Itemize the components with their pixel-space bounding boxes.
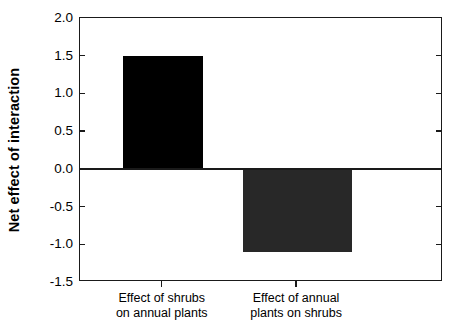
y-axis-tick-label: 2.0 (54, 10, 73, 25)
y-axis-tick-label: 1.0 (54, 85, 73, 100)
x-axis-tick-label-line: plants on shrubs (250, 306, 342, 321)
x-axis-tick-label-line: Effect of shrubs (116, 291, 208, 306)
x-axis-tick-mark (295, 281, 296, 287)
y-axis-tick-label: 0.5 (54, 123, 73, 138)
y-axis-tick-label: -1.5 (50, 274, 73, 289)
y-axis-tick-mark (436, 206, 441, 207)
bar (243, 169, 352, 252)
y-axis-tick-mark (436, 244, 441, 245)
plot-inner (80, 18, 441, 280)
x-axis-tick-label: Effect of annualplants on shrubs (250, 291, 342, 321)
x-axis-tick-label-line: on annual plants (116, 306, 208, 321)
x-axis-tick-mark (161, 281, 162, 287)
y-axis-tick-mark (436, 130, 441, 131)
plot-area (79, 17, 442, 281)
y-axis-label: Net effect of interaction (6, 68, 22, 232)
y-axis-tick-label: 0.0 (54, 160, 73, 175)
bar-chart-figure: Net effect of interaction 2.01.51.00.50.… (0, 0, 457, 331)
x-axis-tick-label: Effect of shrubson annual plants (116, 291, 208, 321)
y-axis-tick-label: -0.5 (50, 198, 73, 213)
y-axis-tick-mark (80, 93, 85, 94)
y-axis-tick-mark (80, 130, 85, 131)
x-axis-tick-label-line: Effect of annual (250, 291, 342, 306)
y-axis-tick-mark (436, 55, 441, 56)
y-axis-tick-mark (436, 93, 441, 94)
y-axis-tick-labels: 2.01.51.00.50.0-0.5-1.0-1.5 (22, 17, 73, 281)
bar (123, 56, 203, 169)
y-axis-tick-label: -1.0 (50, 236, 73, 251)
y-axis-tick-mark (80, 244, 85, 245)
y-axis-tick-mark (80, 206, 85, 207)
y-axis-tick-mark (80, 55, 85, 56)
zero-baseline (80, 168, 441, 170)
y-axis-tick-label: 1.5 (54, 47, 73, 62)
